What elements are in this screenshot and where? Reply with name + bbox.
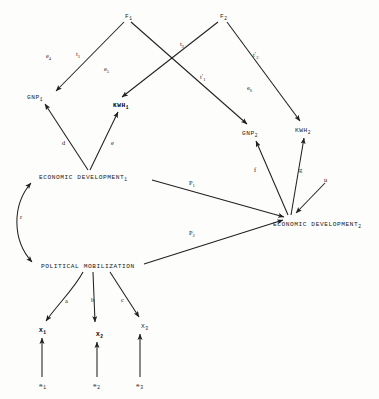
node-political-mobilization: POLITICAL MOBILIZATION	[41, 264, 135, 272]
edge-ED1-GNP1	[45, 104, 88, 170]
node-F2: F2	[220, 14, 227, 22]
edge-ED2-GNP2	[256, 141, 288, 215]
node-e3: e3	[136, 383, 143, 391]
edge-F1-GNP2	[131, 22, 247, 124]
path-label-e6: e6	[247, 84, 252, 94]
path-diagram: F1 F2 GNP1 KWH1 GNP2 KWH2 ECONOMIC DEVEL…	[0, 0, 379, 399]
node-X2: X2	[96, 332, 103, 340]
node-GNP2: GNP2	[242, 131, 258, 139]
path-label-P2: P2	[189, 229, 195, 239]
edge-ED1-ED2	[152, 180, 284, 217]
node-X3: X3	[141, 324, 148, 332]
node-KWH2: KWH2	[295, 128, 311, 136]
path-label-e: e	[111, 139, 114, 149]
node-F1: F1	[125, 14, 132, 22]
edge-PM-X3	[110, 272, 139, 317]
diagram-edges-layer	[0, 0, 379, 399]
edge-F1-GNP1	[56, 22, 124, 91]
node-economic-development-1: ECONOMIC DEVELOPMENT1	[39, 175, 127, 183]
edge-PM-ED2	[144, 220, 283, 264]
node-e2: e2	[93, 383, 100, 391]
node-GNP1: GNP1	[27, 95, 43, 103]
path-label-t1: t1	[76, 50, 80, 60]
edge-ED2-KWH2	[291, 138, 304, 215]
edge-F2-KWH2	[227, 22, 300, 121]
node-economic-development-2: ECONOMIC DEVELOPMENT2	[273, 222, 361, 230]
path-label-r: r	[20, 213, 22, 223]
path-label-b: b	[91, 296, 94, 306]
path-label-u: u	[324, 176, 327, 186]
path-label-t2: t2	[180, 40, 184, 50]
node-e1: e1	[39, 383, 46, 391]
path-label-e4: e4	[46, 52, 51, 62]
path-label-a: a	[65, 297, 68, 307]
path-label-P1: P1	[189, 179, 195, 189]
path-label-t1-prime: t′1	[200, 73, 205, 83]
path-label-t2-prime: t′2	[253, 51, 258, 61]
node-X1: X1	[39, 328, 46, 336]
path-label-c: c	[121, 296, 124, 306]
edge-u-ED2	[296, 183, 325, 213]
path-label-g: g	[299, 166, 302, 176]
node-KWH1: KWH1	[113, 103, 129, 111]
path-label-e5: e5	[104, 65, 109, 75]
path-label-d: d	[62, 139, 65, 149]
path-label-f: f	[254, 166, 256, 176]
